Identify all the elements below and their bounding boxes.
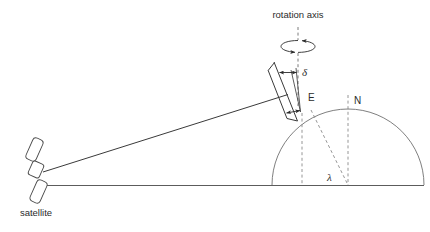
rotation-axis-label: rotation axis — [272, 9, 323, 20]
rotation-arrow-ellipse-icon — [281, 41, 315, 53]
antenna-bottom-rim — [287, 119, 298, 122]
antenna-top-rim — [269, 63, 275, 71]
elevation-label: E — [308, 92, 315, 103]
satellite-geometry-diagram: rotation axis δ E N — [0, 0, 430, 232]
north-label: N — [354, 95, 361, 106]
antenna-wedge-edge — [291, 70, 301, 112]
satellite-solar-panel-upper — [25, 137, 44, 162]
satellite-body — [27, 160, 44, 179]
satellite-solar-panel-lower — [29, 179, 48, 204]
satellite-label: satellite — [20, 207, 52, 218]
signal-beam-line — [43, 95, 288, 173]
figure-canvas: rotation axis δ E N — [0, 0, 430, 232]
antenna-group — [268, 62, 301, 121]
lambda-label: λ — [326, 171, 332, 183]
antenna-back-strut — [268, 70, 287, 119]
antenna-reflector-line — [274, 62, 298, 121]
satellite-group — [25, 137, 48, 204]
delta-label: δ — [302, 66, 308, 78]
